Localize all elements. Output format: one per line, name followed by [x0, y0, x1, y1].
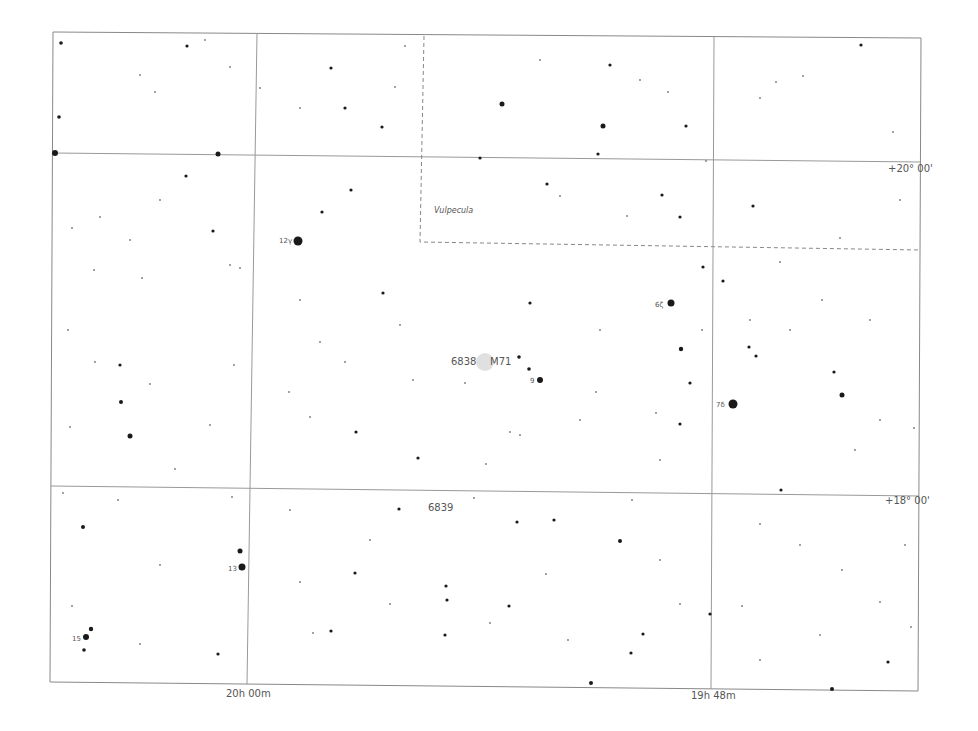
ra-line-19h48: [711, 37, 714, 689]
ra-label-20h00m: 20h 00m: [226, 688, 271, 699]
ra-line-20h: [247, 33, 257, 684]
star-label-15: 15: [72, 635, 81, 643]
faint-stars: [62, 39, 915, 661]
star-label-13: 13: [228, 565, 237, 573]
dec-label-18: +18° 00': [885, 495, 930, 506]
object-label-ngc6839: 6839: [428, 502, 453, 513]
constellation-label: Vulpecula: [434, 206, 473, 215]
star-chart: [0, 0, 978, 731]
ra-label-19h48m: 19h 48m: [691, 690, 736, 701]
star-label-6-zeta: 6ζ: [655, 301, 663, 309]
object-label-m71: M71: [490, 356, 511, 367]
dec-line-18: [51, 486, 919, 496]
object-label-ngc6838: 6838: [451, 356, 476, 367]
star-label-9: 9: [530, 377, 534, 385]
star-label-12-gamma: 12γ: [279, 237, 292, 245]
star-label-7-delta: 7δ: [716, 401, 725, 409]
dec-label-20: +20° 00': [888, 163, 933, 174]
constellation-boundary: [420, 36, 920, 250]
dec-line-20: [53, 153, 920, 162]
